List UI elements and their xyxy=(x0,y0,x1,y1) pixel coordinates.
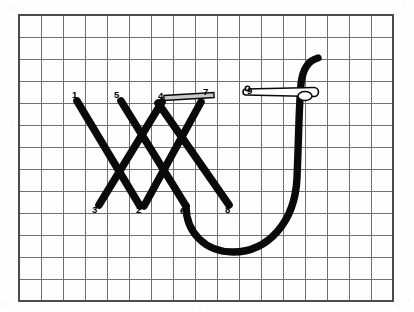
point-label-3: 3 xyxy=(92,204,97,215)
point-label-1: 1 xyxy=(72,89,78,100)
point-label-5: 5 xyxy=(114,89,120,100)
point-label-8: 8 xyxy=(225,204,230,215)
point-label-7: 7 xyxy=(203,86,208,97)
paper-background xyxy=(0,0,414,312)
cross-stitch-diagram: 123456789 xyxy=(0,0,414,312)
point-label-9: 9 xyxy=(247,85,252,96)
point-label-2: 2 xyxy=(136,204,141,215)
diagram-page: 123456789 xyxy=(0,0,414,312)
point-label-4: 4 xyxy=(158,90,164,101)
point-label-6: 6 xyxy=(180,205,185,216)
needle-eye xyxy=(298,92,312,101)
